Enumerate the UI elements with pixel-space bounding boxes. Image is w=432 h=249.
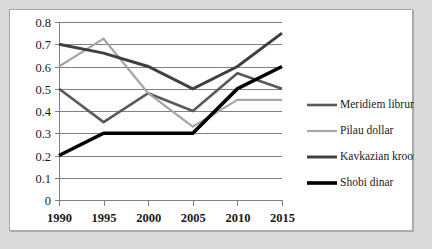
ytick-label-0.8: 0.8: [35, 16, 51, 30]
chart-panel: 00.10.20.30.40.50.60.70.8199019952000200…: [9, 9, 413, 231]
plot-area: 00.10.20.30.40.50.60.70.8199019952000200…: [10, 10, 414, 232]
legend-label-0: Meridiem librum: [340, 98, 414, 110]
y-gridlines: 00.10.20.30.40.50.60.70.8: [35, 16, 282, 208]
legend-label-1: Pilau dollar: [340, 124, 394, 136]
ytick-label-0.4: 0.4: [35, 105, 51, 119]
series-group: [59, 33, 282, 155]
ytick-label-0.3: 0.3: [35, 127, 51, 141]
legend-label-2: Kavkazian kroom: [340, 150, 414, 162]
ytick-label-0.2: 0.2: [35, 150, 51, 164]
ytick-label-0.7: 0.7: [35, 38, 51, 52]
ytick-label-0.1: 0.1: [35, 172, 51, 186]
xtick-label-2000: 2000: [136, 211, 161, 225]
xtick-label-2010: 2010: [225, 211, 250, 225]
xtick-label-1995: 1995: [92, 211, 117, 225]
xtick-label-1990: 1990: [47, 211, 72, 225]
xtick-label-2005: 2005: [181, 211, 206, 225]
legend: Meridiem librumPilau dollarKavkazian kro…: [307, 98, 414, 188]
screenshot-root: 00.10.20.30.40.50.60.70.8199019952000200…: [0, 0, 432, 249]
ytick-label-0.5: 0.5: [35, 83, 51, 97]
series-line-meridiem-librum: [59, 73, 282, 122]
ytick-label-0.6: 0.6: [35, 61, 51, 75]
line-chart: 00.10.20.30.40.50.60.70.8199019952000200…: [10, 10, 414, 232]
x-axis: 199019952000200520102015: [47, 200, 295, 225]
series-line-kavkazian-kroom: [59, 33, 282, 89]
legend-label-3: Shobi dinar: [340, 176, 394, 188]
ytick-label-0: 0: [45, 194, 51, 208]
xtick-label-2015: 2015: [270, 211, 295, 225]
